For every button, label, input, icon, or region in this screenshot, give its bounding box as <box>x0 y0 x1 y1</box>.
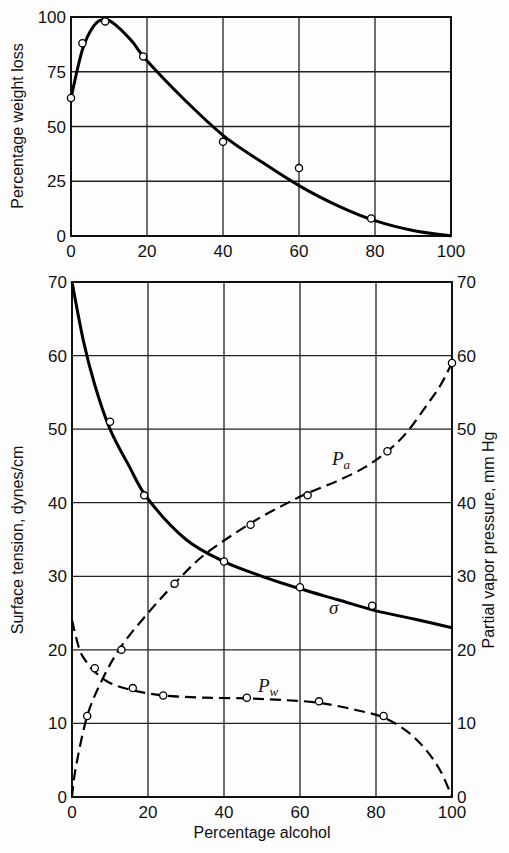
data-point <box>140 53 147 60</box>
data-point <box>384 448 391 455</box>
x-tick-label: 0 <box>66 242 75 261</box>
bottom-chart: 0204060801000102030405060700102030405060… <box>9 273 497 841</box>
pw-label-sub: w <box>270 684 279 699</box>
data-point <box>67 94 74 101</box>
data-point <box>79 40 86 47</box>
y-tick-label: 50 <box>47 118 66 137</box>
data-point <box>315 698 322 705</box>
x-tick-label: 40 <box>215 803 234 822</box>
data-point <box>296 584 303 591</box>
right-y-tick-label: 70 <box>457 273 476 292</box>
data-point <box>129 685 136 692</box>
bottom-grid <box>72 282 452 797</box>
figure: 0204060801000255075100 Percentage weight… <box>0 0 509 853</box>
x-tick-label: 40 <box>214 242 233 261</box>
data-point <box>118 646 125 653</box>
y-tick-label: 0 <box>57 227 66 246</box>
weight-loss-curve <box>71 19 451 236</box>
top-y-axis-label: Percentage weight loss <box>9 43 26 208</box>
left-y-tick-label: 60 <box>48 347 67 366</box>
water-vapor-pressure-curve <box>72 620 452 797</box>
data-point <box>380 712 387 719</box>
data-point <box>448 359 455 366</box>
bottom-left-y-axis-label: Surface tension, dynes/cm <box>9 446 26 635</box>
right-y-tick-label: 0 <box>457 788 466 807</box>
left-y-tick-label: 30 <box>48 567 67 586</box>
left-y-tick-label: 0 <box>58 788 67 807</box>
pa-label-main: P <box>331 448 344 469</box>
data-point <box>220 558 227 565</box>
data-point <box>295 165 302 172</box>
x-tick-label: 100 <box>437 242 465 261</box>
right-y-tick-label: 10 <box>457 714 476 733</box>
x-tick-label: 60 <box>291 803 310 822</box>
y-tick-label: 100 <box>38 8 66 27</box>
pw-label-main: P <box>257 675 270 696</box>
right-y-tick-label: 60 <box>457 347 476 366</box>
top-grid <box>71 17 451 236</box>
x-tick-label: 60 <box>290 242 309 261</box>
data-point <box>91 665 98 672</box>
left-y-tick-label: 50 <box>48 420 67 439</box>
top-tick-labels: 0204060801000255075100 <box>38 8 466 261</box>
data-point <box>102 18 109 25</box>
pa-label: Pa <box>331 448 351 472</box>
bottom-right-y-axis-label: Partial vapor pressure, mm Hg <box>480 432 497 649</box>
right-y-tick-label: 50 <box>457 420 476 439</box>
pa-label-sub: a <box>344 457 351 472</box>
sigma-label: σ <box>329 597 339 618</box>
bottom-data-points <box>84 359 456 719</box>
x-tick-label: 20 <box>139 803 158 822</box>
right-y-tick-label: 40 <box>457 494 476 513</box>
bottom-x-axis-label: Percentage alcohol <box>194 824 331 841</box>
data-point <box>84 712 91 719</box>
left-y-tick-label: 20 <box>48 641 67 660</box>
right-y-tick-label: 30 <box>457 567 476 586</box>
pw-label: Pw <box>257 675 279 699</box>
left-y-tick-label: 40 <box>48 494 67 513</box>
left-y-tick-label: 10 <box>48 714 67 733</box>
data-point <box>369 602 376 609</box>
data-point <box>368 215 375 222</box>
top-chart: 0204060801000255075100 Percentage weight… <box>9 8 465 261</box>
right-y-tick-label: 20 <box>457 641 476 660</box>
data-point <box>141 492 148 499</box>
data-point <box>219 138 226 145</box>
y-tick-label: 75 <box>47 63 66 82</box>
weight-loss-points <box>67 18 374 222</box>
data-point <box>247 521 254 528</box>
x-tick-label: 80 <box>366 242 385 261</box>
data-point <box>243 694 250 701</box>
left-y-tick-label: 70 <box>48 273 67 292</box>
x-tick-label: 20 <box>138 242 157 261</box>
alcohol-vapor-pressure-curve <box>72 363 452 797</box>
data-point <box>106 418 113 425</box>
x-tick-label: 0 <box>67 803 76 822</box>
y-tick-label: 25 <box>47 172 66 191</box>
bottom-plot-frame <box>72 282 452 797</box>
data-point <box>160 692 167 699</box>
data-point <box>171 580 178 587</box>
data-point <box>304 492 311 499</box>
x-tick-label: 80 <box>367 803 386 822</box>
